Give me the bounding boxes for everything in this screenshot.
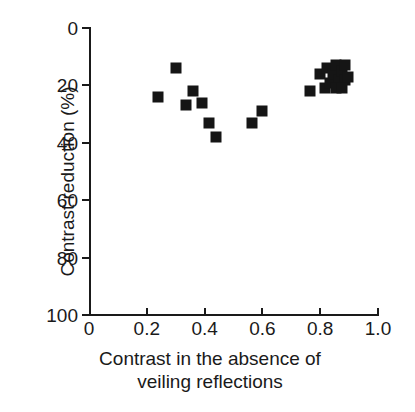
x-axis-title-line-2: veiling reflections	[40, 370, 380, 393]
data-point	[170, 63, 181, 74]
data-point	[342, 71, 353, 82]
x-tick-label-1.0: 1.0	[365, 319, 391, 338]
y-tick-100	[82, 314, 89, 316]
y-tick-20	[82, 84, 89, 86]
scatter-plot-figure: 020406080100 00.20.40.60.81.0 Contrast r…	[0, 0, 415, 412]
y-axis-title: Contrast reduction (%)	[57, 52, 78, 312]
x-tick-label-0.6: 0.6	[249, 319, 275, 338]
y-tick-60	[82, 199, 89, 201]
y-tick-80	[82, 257, 89, 259]
x-axis-title: Contrast in the absence of veiling refle…	[40, 347, 380, 393]
y-tick-0	[82, 27, 89, 29]
data-point	[203, 117, 214, 128]
data-point	[180, 100, 191, 111]
data-point	[153, 91, 164, 102]
x-axis-title-line-1: Contrast in the absence of	[40, 347, 380, 370]
x-tick-label-0.8: 0.8	[307, 319, 333, 338]
y-tick-label-0: 0	[67, 19, 78, 38]
data-point	[188, 86, 199, 97]
data-point	[247, 117, 258, 128]
data-point	[336, 83, 347, 94]
x-tick-label-0: 0	[84, 319, 95, 338]
data-point	[305, 86, 316, 97]
data-point	[339, 60, 350, 71]
data-point	[196, 97, 207, 108]
x-tick-label-0.2: 0.2	[134, 319, 160, 338]
data-point	[257, 106, 268, 117]
data-point	[211, 132, 222, 143]
x-tick-label-0.4: 0.4	[191, 319, 217, 338]
plot-area	[89, 28, 378, 315]
y-tick-40	[82, 142, 89, 144]
